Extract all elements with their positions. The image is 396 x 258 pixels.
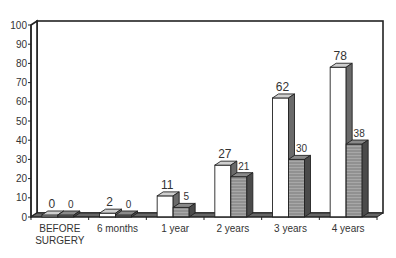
- y-tick-label: 40: [16, 135, 28, 146]
- x-category-label: SURGERY: [35, 235, 85, 246]
- x-axis: BEFORESURGERY6 months1 year2 years3 year…: [31, 217, 377, 246]
- bar-front: [289, 159, 305, 217]
- x-category-label: 6 months: [97, 223, 138, 234]
- y-tick-label: 60: [16, 96, 28, 107]
- bar-value-label: 27: [218, 147, 232, 161]
- y-tick-label: 30: [16, 154, 28, 165]
- bar-side: [247, 173, 253, 217]
- bar-value-label: 11: [161, 178, 174, 192]
- x-category-label: 4 years: [332, 223, 365, 234]
- y-tick-label: 80: [16, 58, 28, 69]
- bar-value-label: 78: [333, 49, 347, 63]
- x-category-label: BEFORE: [39, 223, 80, 234]
- bar-value-label: 38: [354, 128, 366, 139]
- y-tick-label: 90: [16, 39, 28, 50]
- bar-front: [157, 196, 173, 217]
- bar-value-label: 0: [48, 197, 55, 211]
- x-category-label: 3 years: [274, 223, 307, 234]
- bar-side: [362, 140, 368, 217]
- y-tick-label: 20: [16, 173, 28, 184]
- bar-value-label: 0: [68, 199, 74, 210]
- bar-front: [231, 177, 247, 217]
- side-wall: [31, 21, 37, 217]
- y-tick-label: 100: [10, 20, 27, 31]
- bar-front: [346, 144, 362, 217]
- bar-value-label: 62: [276, 80, 290, 94]
- bar-value-label: 2: [106, 195, 113, 209]
- bar-value-label: 30: [296, 143, 308, 154]
- y-tick-label: 70: [16, 77, 28, 88]
- y-tick-label: 50: [16, 116, 28, 127]
- chart-canvas: 0102030405060708090100 00201152721623078…: [0, 0, 396, 258]
- bar-front: [173, 207, 189, 217]
- bar-front: [215, 165, 231, 217]
- bar-value-label: 0: [126, 199, 132, 210]
- bar: 38: [346, 128, 368, 217]
- x-category-label: 1 year: [161, 223, 189, 234]
- x-category-label: 2 years: [216, 223, 249, 234]
- y-tick-label: 0: [21, 212, 27, 223]
- bar-chart: 0102030405060708090100 00201152721623078…: [0, 0, 396, 258]
- bar-front: [330, 67, 346, 217]
- bar-front: [273, 98, 289, 217]
- bar-side: [305, 155, 311, 217]
- bar-value-label: 5: [183, 191, 189, 202]
- bar-value-label: 21: [238, 161, 250, 172]
- y-tick-label: 10: [16, 192, 28, 203]
- y-axis: 0102030405060708090100: [10, 20, 31, 223]
